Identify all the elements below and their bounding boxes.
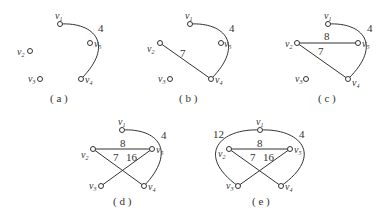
node-v2	[295, 41, 300, 46]
caption-d: ( d )	[113, 195, 132, 208]
node-v4	[346, 77, 351, 82]
node-v1	[258, 128, 263, 133]
node-v2	[28, 49, 33, 54]
panel-b: v1 v2 v3 v4 v5 4 7 ( b )	[147, 10, 235, 105]
weight-4: 4	[229, 22, 235, 34]
label-v2: v2	[218, 148, 225, 160]
weight-8: 8	[324, 30, 330, 42]
edge-v2-v4	[160, 43, 211, 79]
node-v2	[158, 41, 163, 46]
node-v1	[188, 22, 193, 27]
weight-4: 4	[98, 22, 104, 34]
weight-7: 7	[250, 151, 256, 163]
label-v1: v1	[118, 116, 125, 128]
node-v4	[142, 184, 147, 189]
weight-16: 16	[126, 151, 138, 163]
panel-a: v1 v2 v3 v4 v5 4 ( a )	[17, 10, 104, 105]
caption-a: ( a )	[50, 92, 68, 105]
label-v5: v5	[94, 38, 101, 50]
label-v3: v3	[89, 180, 96, 192]
label-v2: v2	[285, 38, 292, 50]
label-v5: v5	[224, 38, 231, 50]
node-v2	[227, 147, 232, 152]
label-v4: v4	[148, 181, 155, 193]
label-v1: v1	[185, 10, 192, 22]
edge-v1-v4	[60, 24, 99, 79]
label-v5: v5	[362, 38, 369, 50]
label-v4: v4	[352, 77, 359, 89]
label-v2: v2	[17, 46, 24, 58]
node-v3	[168, 77, 173, 82]
node-v3	[38, 77, 43, 82]
caption-b: ( b )	[179, 92, 198, 105]
node-v2	[91, 147, 96, 152]
node-v3	[236, 184, 241, 189]
graph-diagram: v1 v2 v3 v4 v5 4 ( a ) v1 v2 v3 v4 v5 4 …	[0, 0, 391, 217]
weight-4: 4	[161, 129, 167, 141]
panel-d: v1 v2 v3 v4 v5 4 8 7 16 ( d )	[81, 116, 167, 208]
label-v3: v3	[295, 73, 302, 85]
node-v4	[79, 77, 84, 82]
edge-v1-v4	[328, 24, 366, 79]
weight-4: 4	[367, 22, 373, 34]
node-v5	[150, 147, 155, 152]
label-v4: v4	[285, 181, 292, 193]
label-v1: v1	[55, 10, 62, 22]
node-v5	[219, 41, 224, 46]
weight-12: 12	[213, 128, 224, 140]
label-v5: v5	[156, 144, 163, 156]
weight-8: 8	[120, 137, 126, 149]
weight-7: 7	[113, 151, 119, 163]
label-v1: v1	[324, 10, 331, 22]
node-v3	[304, 77, 309, 82]
weight-4: 4	[299, 128, 305, 140]
label-v2: v2	[147, 43, 154, 55]
label-v3: v3	[28, 73, 35, 85]
node-v1	[58, 22, 63, 27]
weight-8: 8	[257, 137, 263, 149]
label-v5: v5	[294, 144, 301, 156]
node-v1	[120, 128, 125, 133]
weight-7: 7	[318, 45, 324, 57]
node-v5	[88, 41, 93, 46]
label-v4: v4	[85, 74, 92, 86]
caption-c: ( c )	[318, 92, 336, 105]
node-v4	[209, 77, 214, 82]
node-v3	[99, 184, 104, 189]
weight-16: 16	[263, 151, 275, 163]
edge-v1-v4	[190, 24, 229, 79]
panel-e: v1 v2 v3 v4 v5 4 12 8 7 16 ( e )	[213, 116, 305, 208]
label-v2: v2	[81, 149, 88, 161]
node-v1	[326, 22, 331, 27]
node-v4	[279, 184, 284, 189]
label-v1: v1	[256, 116, 263, 128]
label-v3: v3	[158, 73, 165, 85]
caption-e: ( e )	[252, 195, 270, 208]
node-v5	[288, 147, 293, 152]
node-v5	[356, 41, 361, 46]
panel-c: v1 v2 v3 v4 v5 4 8 7 ( c )	[285, 10, 373, 105]
label-v4: v4	[215, 74, 222, 86]
weight-7: 7	[180, 47, 186, 59]
